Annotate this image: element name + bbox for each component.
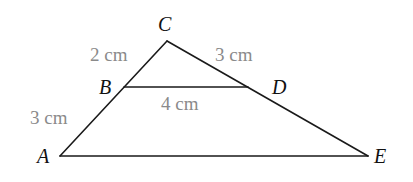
vertex-label-C: C (158, 13, 172, 35)
measurement-CB: 2 cm (90, 44, 128, 65)
vertex-label-A: A (35, 145, 50, 167)
measurement-CD: 3 cm (215, 44, 253, 65)
vertex-label-B: B (99, 76, 111, 98)
vertex-label-D: D (271, 76, 287, 98)
measurement-BD: 4 cm (161, 93, 199, 114)
diagram-svg: C B D A E 2 cm 3 cm 4 cm 3 cm (0, 0, 413, 182)
triangle-diagram: C B D A E 2 cm 3 cm 4 cm 3 cm (0, 0, 413, 182)
measurement-BA: 3 cm (30, 107, 68, 128)
vertex-label-E: E (373, 145, 386, 167)
